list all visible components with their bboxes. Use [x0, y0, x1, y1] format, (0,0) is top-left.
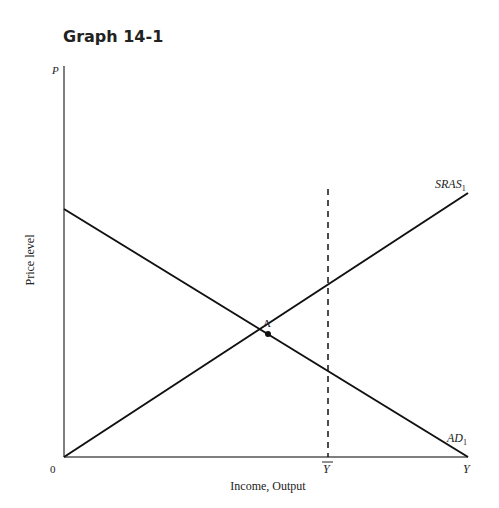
ybar-label: Y — [323, 462, 331, 476]
x-axis-end-label: Y — [463, 462, 471, 476]
equilibrium-point-a — [265, 331, 271, 337]
origin-label: 0 — [50, 463, 56, 475]
y-axis-title: Price level — [23, 234, 37, 286]
point-a-label: A — [263, 317, 271, 329]
sras-label: SRAS1 — [435, 177, 466, 193]
x-axis-title: Income, Output — [230, 479, 306, 493]
ad-label: AD1 — [446, 431, 467, 447]
y-axis-end-label: P — [51, 64, 59, 76]
chart-plot: P 0 Y Y A SRAS1 AD1 Income, Output Price… — [0, 0, 499, 508]
